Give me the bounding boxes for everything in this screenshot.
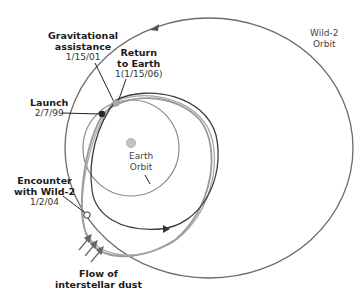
dust-flow-label: Flow of interstellar dust <box>55 268 142 290</box>
return-date: 1(1/15/06) <box>115 69 162 80</box>
return-title-1: Return <box>115 47 162 58</box>
trajectory-direction-arrow-icon <box>163 225 170 233</box>
launch-marker <box>99 111 105 117</box>
gravitational-assistance-label: Gravitational assistance 1/15/01 <box>48 30 118 63</box>
encounter-title-2: with Wild-2 <box>14 186 75 197</box>
earth-orbit-label-line1: Earth <box>129 151 153 161</box>
return-to-earth-label: Return to Earth 1(1/15/06) <box>115 47 162 80</box>
launch-date: 2/7/99 <box>30 108 68 119</box>
wild2-orbit-label-line2: Orbit <box>313 39 336 49</box>
dust-arrows-icon <box>79 235 103 262</box>
dust-line-1: Flow of <box>55 268 142 279</box>
gravitational-date: 1/15/01 <box>48 52 118 63</box>
launch-title: Launch <box>30 97 68 108</box>
leader-gravitational <box>95 63 114 102</box>
encounter-marker <box>84 212 90 218</box>
dust-line-2: interstellar dust <box>55 279 142 290</box>
sun-icon <box>127 139 136 148</box>
trajectory-loop-dark <box>91 93 218 229</box>
earth-orbit-label-line2: Orbit <box>130 162 153 172</box>
wild2-orbit-label-line1: Wild-2 <box>310 28 338 38</box>
wild2-orbit-label: Wild-2 Orbit <box>310 28 338 50</box>
trajectory-loop-light-2 <box>82 96 214 255</box>
leader-earth-orbit <box>145 175 150 184</box>
encounter-date: 1/2/04 <box>14 197 75 208</box>
gravitational-title-2: assistance <box>48 41 118 52</box>
encounter-title-1: Encounter <box>14 175 75 186</box>
return-marker <box>113 100 119 106</box>
launch-label: Launch 2/7/99 <box>30 97 68 119</box>
orbit-direction-arrow-icon <box>150 24 159 31</box>
gravitational-title-1: Gravitational <box>48 30 118 41</box>
earth-orbit-label: Earth Orbit <box>129 151 153 173</box>
return-title-2: to Earth <box>115 58 162 69</box>
encounter-label: Encounter with Wild-2 1/2/04 <box>14 175 75 208</box>
